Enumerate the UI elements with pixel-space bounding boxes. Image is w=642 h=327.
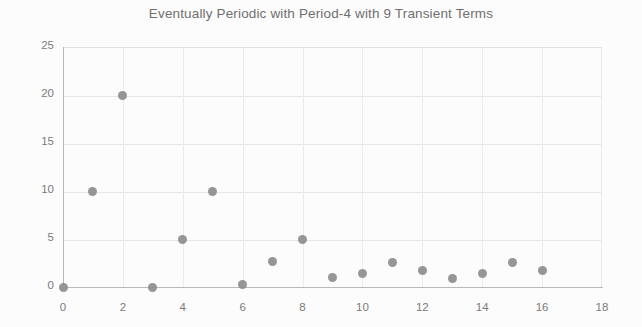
gridline-vertical <box>482 48 483 287</box>
x-axis-tick-label: 8 <box>283 301 323 313</box>
x-axis-tick-label: 0 <box>43 301 83 313</box>
gridline-horizontal <box>63 240 601 241</box>
data-point <box>178 235 187 244</box>
data-point <box>328 273 337 282</box>
y-axis-line <box>63 47 64 288</box>
data-point <box>448 274 457 283</box>
data-point <box>148 283 157 292</box>
gridline-horizontal <box>63 96 601 97</box>
x-axis-tick-label: 18 <box>582 301 622 313</box>
gridline-vertical <box>542 48 543 287</box>
data-point <box>238 280 247 289</box>
plot-area <box>63 47 602 287</box>
data-point <box>418 266 427 275</box>
x-axis-tick-label: 6 <box>223 301 263 313</box>
x-axis-tick-label: 14 <box>462 301 502 313</box>
gridline-vertical <box>243 48 244 287</box>
gridline-vertical <box>303 48 304 287</box>
chart-title: Eventually Periodic with Period-4 with 9… <box>0 6 642 21</box>
data-point <box>358 269 367 278</box>
data-point <box>538 266 547 275</box>
data-point <box>268 257 277 266</box>
data-point <box>388 258 397 267</box>
data-point <box>208 187 217 196</box>
data-point <box>59 283 68 292</box>
y-axis-tick-label: 25 <box>14 39 54 51</box>
gridline-horizontal <box>63 192 601 193</box>
data-point <box>118 91 127 100</box>
x-axis-tick-label: 12 <box>402 301 442 313</box>
x-axis-tick-label: 4 <box>163 301 203 313</box>
data-point <box>508 258 517 267</box>
y-axis-tick-label: 0 <box>14 279 54 291</box>
data-point <box>478 269 487 278</box>
y-axis-tick-label: 15 <box>14 135 54 147</box>
gridline-horizontal <box>63 144 601 145</box>
x-axis-tick-label: 2 <box>103 301 143 313</box>
gridline-vertical <box>123 48 124 287</box>
data-point <box>298 235 307 244</box>
y-axis-tick-label: 5 <box>14 231 54 243</box>
x-axis-tick-label: 10 <box>342 301 382 313</box>
y-axis-tick-label: 10 <box>14 183 54 195</box>
gridline-vertical <box>183 48 184 287</box>
scatter-chart: Eventually Periodic with Period-4 with 9… <box>0 0 642 327</box>
gridline-vertical <box>422 48 423 287</box>
x-axis-tick-label: 16 <box>522 301 562 313</box>
data-point <box>88 187 97 196</box>
y-axis-tick-label: 20 <box>14 87 54 99</box>
x-axis-line <box>63 287 603 288</box>
gridline-vertical <box>362 48 363 287</box>
